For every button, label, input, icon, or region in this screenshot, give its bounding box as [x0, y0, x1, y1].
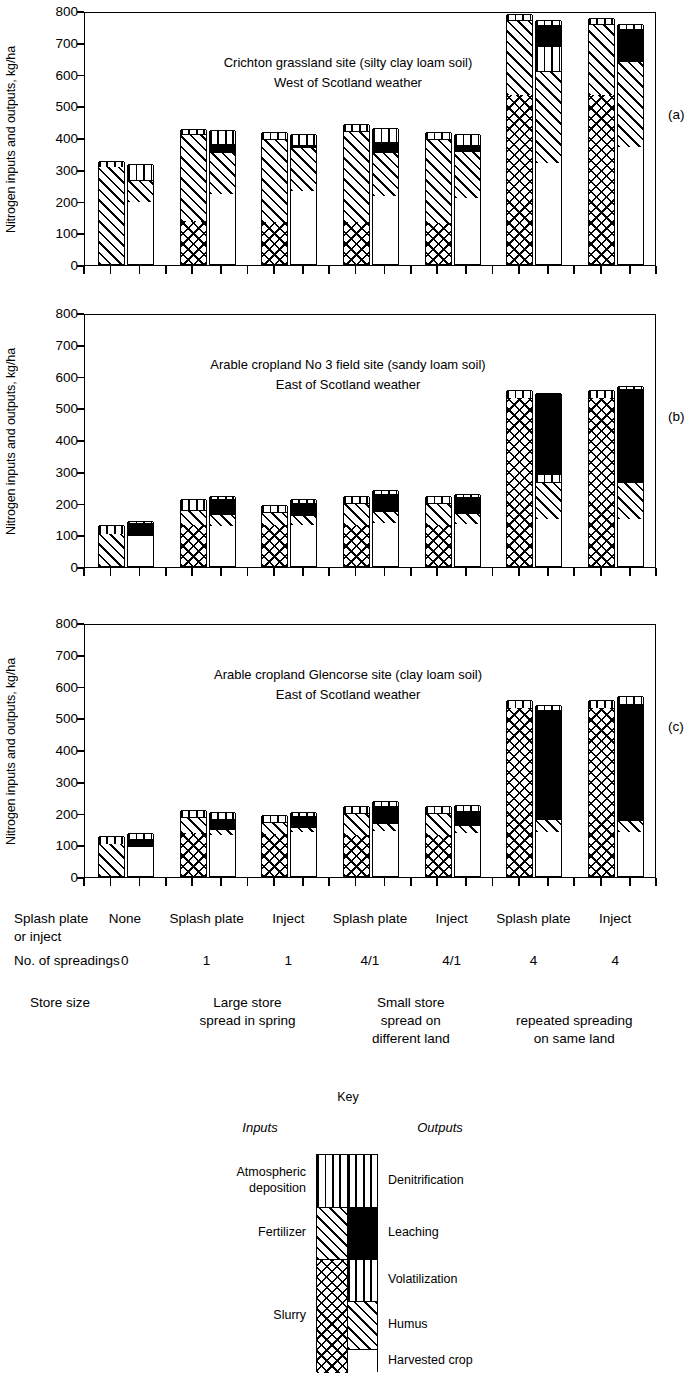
row3-group: repeated spreadingon same land [516, 994, 632, 1048]
plot-area-a [84, 12, 656, 266]
plot-area-c [84, 624, 656, 878]
row2-value: 4 [611, 952, 619, 970]
x-tick-mark [165, 568, 167, 576]
y-tick-mark [77, 345, 84, 347]
bar-segment-denitrification [128, 833, 153, 839]
output-bar [535, 394, 562, 567]
key-output-label: Denitrification [388, 1172, 464, 1188]
output-bar [209, 131, 236, 265]
y-tick-label: 300 [55, 164, 78, 178]
output-bar [290, 135, 317, 265]
x-tick-mark [165, 266, 167, 274]
bar-segment-leaching [373, 142, 398, 152]
y-tick-label: 200 [55, 808, 78, 822]
output-bar [290, 813, 317, 877]
x-tick-mark [220, 878, 222, 886]
row2-value: 1 [285, 952, 293, 970]
bar-segment-slurry [507, 95, 532, 264]
x-tick-mark [436, 568, 438, 576]
input-bar [98, 162, 125, 265]
x-tick-mark [573, 568, 575, 576]
bar-segment-humus [291, 515, 316, 525]
bar-segment-leaching [536, 393, 561, 474]
key-output-label: Leaching [388, 1224, 439, 1240]
row2-value: 4/1 [361, 952, 380, 970]
y-axis-ticks: 8007006005004003002001000 [44, 302, 78, 602]
x-tick-mark [220, 266, 222, 274]
panel-a: Nitrogen inputs and outputs, kg/ha800700… [0, 0, 696, 300]
bar-segment-atmospheric-deposition [262, 132, 287, 139]
y-axis-label: Nitrogen inputs and outputs, kg/ha [4, 624, 18, 878]
y-tick-label: 400 [55, 132, 78, 146]
bar-segment-denitrification [210, 812, 235, 819]
bar-segment-fertilizer [426, 813, 451, 835]
x-tick-mark [436, 266, 438, 274]
y-tick-mark [77, 233, 84, 235]
bar-segment-denitrification [455, 805, 480, 811]
bar-segment-atmospheric-deposition [99, 836, 124, 844]
y-tick-mark [77, 845, 84, 847]
bar-segment-humus [291, 827, 316, 832]
x-tick-mark [465, 568, 467, 576]
y-tick-label: 200 [55, 498, 78, 512]
bar-segment-denitrification [618, 24, 643, 29]
x-tick-mark [139, 266, 141, 274]
bar-segment-fertilizer [426, 503, 451, 525]
x-tick-mark [302, 568, 304, 576]
y-tick-mark [77, 623, 84, 625]
x-tick-mark [547, 266, 549, 274]
row1-value: Splash plate [169, 910, 243, 928]
y-tick-label: 800 [55, 307, 78, 321]
key-output-swatch-1 [347, 1207, 377, 1259]
bar-segment-slurry [181, 221, 206, 264]
output-bar [127, 834, 154, 877]
y-tick-mark [77, 655, 84, 657]
plot-area-b [84, 314, 656, 568]
key-output-label: Volatilization [388, 1271, 458, 1287]
key-input-swatch-2 [317, 1259, 347, 1373]
bar-segment-harvested-crop [455, 198, 480, 264]
y-tick-mark [77, 106, 84, 108]
x-tick-mark [547, 878, 549, 886]
row3-label: Store size [30, 994, 90, 1012]
key-input-label: Atmospheric [237, 1164, 306, 1180]
output-bar [617, 387, 644, 567]
y-tick-mark [77, 750, 84, 752]
output-bar [290, 500, 317, 567]
y-tick-label: 500 [55, 713, 78, 727]
bar-segment-slurry [589, 708, 614, 876]
y-tick-label: 500 [55, 403, 78, 417]
x-tick-mark [518, 266, 520, 274]
row2-value: 1 [203, 952, 211, 970]
y-tick-mark [77, 202, 84, 204]
row3-group: Small storespread ondifferent land [372, 994, 450, 1048]
x-tick-mark [384, 568, 386, 576]
input-bar [261, 506, 288, 567]
bar-segment-slurry [589, 398, 614, 566]
input-bar [261, 816, 288, 877]
bar-segment-humus [373, 823, 398, 831]
x-tick-mark [139, 878, 141, 886]
y-tick-label: 700 [55, 649, 78, 663]
y-tick-label: 800 [55, 5, 78, 19]
row3-group-line: spread in spring [199, 1012, 295, 1030]
output-bar [209, 813, 236, 877]
bar-segment-harvested-crop [618, 147, 643, 264]
input-bar [506, 391, 533, 567]
bar-segment-humus [536, 819, 561, 832]
bar-segment-harvested-crop [210, 526, 235, 566]
x-tick-mark [410, 266, 412, 274]
bar-segment-atmospheric-deposition [344, 124, 369, 130]
bar-segment-humus [455, 151, 480, 198]
bar-segment-leaching [455, 497, 480, 513]
key-inputs-heading: Inputs [242, 1120, 277, 1135]
row3-group-line: on same land [516, 1030, 632, 1048]
row1-value: Inject [436, 910, 468, 928]
bar-segment-harvested-crop [291, 525, 316, 566]
panel-c: Nitrogen inputs and outputs, kg/ha800700… [0, 612, 696, 912]
x-tick-mark [629, 878, 631, 886]
bar-segment-atmospheric-deposition [99, 161, 124, 167]
bar-segment-atmospheric-deposition [507, 14, 532, 20]
output-bar [209, 497, 236, 567]
x-tick-mark [83, 266, 85, 274]
